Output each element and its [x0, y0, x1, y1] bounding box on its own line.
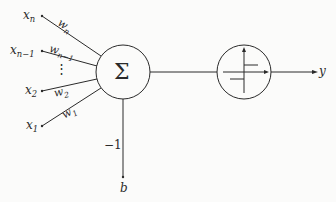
bias-label: b: [120, 182, 128, 194]
weight-label-w2: w2: [53, 85, 70, 102]
ellipsis: ⋮: [55, 62, 68, 75]
sigma-symbol: Σ: [114, 59, 130, 84]
output-label: y: [319, 65, 326, 77]
input-label-x1: x1: [26, 119, 38, 134]
edge-x2: [42, 79, 97, 91]
bias-weight-label: −1: [104, 139, 122, 151]
input-label-xn-1: xn−1: [10, 44, 35, 59]
step-function-icon: [223, 50, 266, 93]
perceptron-diagram: [0, 0, 336, 202]
input-label-x2: x2: [25, 84, 37, 99]
input-label-xn: xn: [23, 9, 35, 24]
